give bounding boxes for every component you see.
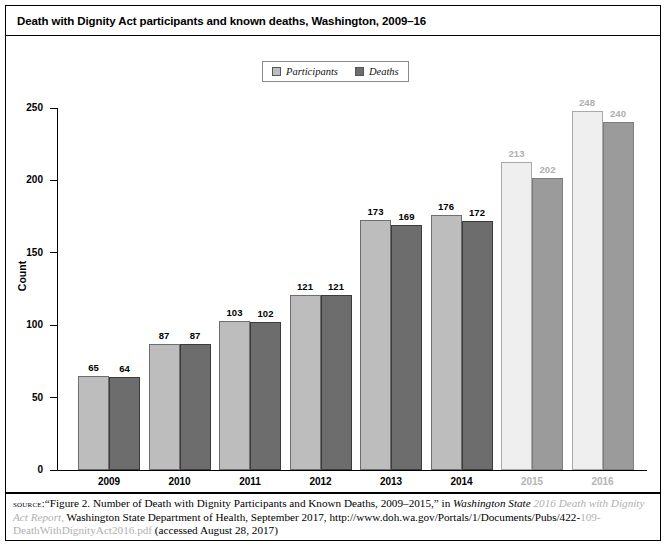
bar-group: 121121 bbox=[290, 108, 352, 470]
bar-deaths-2014[interactable]: 172 bbox=[462, 221, 493, 470]
bar-deaths-2012[interactable]: 121 bbox=[321, 295, 352, 470]
bar-groups: 6564878710310212112117316917617221320224… bbox=[0, 0, 666, 546]
source-text-1: “Figure 2. Number of Death with Dignity … bbox=[45, 497, 453, 509]
plot-area: Count 050100150200250 656487871031021211… bbox=[0, 0, 666, 546]
bar-value-label: 173 bbox=[368, 206, 384, 217]
x-axis-tick-label-2015: 2015 bbox=[497, 476, 567, 487]
source-note: source:“Figure 2. Number of Death with D… bbox=[13, 497, 653, 538]
bar-value-label: 64 bbox=[119, 363, 130, 374]
bar-participants-2009[interactable]: 65 bbox=[78, 376, 109, 470]
bar-group: 103102 bbox=[219, 108, 281, 470]
bar-participants-2013[interactable]: 173 bbox=[360, 220, 391, 471]
bar-value-label: 213 bbox=[509, 148, 525, 159]
bar-value-label: 172 bbox=[469, 207, 485, 218]
bar-deaths-2010[interactable]: 87 bbox=[180, 344, 211, 470]
x-axis-tick-label-2011: 2011 bbox=[215, 476, 285, 487]
bar-participants-2010[interactable]: 87 bbox=[149, 344, 180, 470]
bar-group: 173169 bbox=[360, 108, 422, 470]
bar-group: 213202 bbox=[501, 108, 563, 470]
x-axis-tick-label-2014: 2014 bbox=[427, 476, 497, 487]
bar-value-label: 169 bbox=[399, 211, 415, 222]
bar-deaths-2011[interactable]: 102 bbox=[250, 322, 281, 470]
bar-group: 176172 bbox=[431, 108, 493, 470]
bar-participants-2012[interactable]: 121 bbox=[290, 295, 321, 470]
bar-value-label: 121 bbox=[297, 281, 313, 292]
bar-value-label: 240 bbox=[610, 108, 626, 119]
source-kicker: source: bbox=[13, 498, 45, 509]
bar-deaths-2009[interactable]: 64 bbox=[109, 377, 140, 470]
bar-participants-2011[interactable]: 103 bbox=[219, 321, 250, 470]
bar-value-label: 103 bbox=[227, 307, 243, 318]
bar-value-label: 202 bbox=[540, 164, 556, 175]
bar-participants-2016[interactable]: 248 bbox=[572, 111, 603, 470]
bar-deaths-2013[interactable]: 169 bbox=[391, 225, 422, 470]
x-axis-tick-label-2009: 2009 bbox=[74, 476, 144, 487]
bar-value-label: 102 bbox=[258, 308, 274, 319]
bar-group: 6564 bbox=[78, 108, 140, 470]
bar-deaths-2015[interactable]: 202 bbox=[532, 178, 563, 470]
x-axis-tick-label-2016: 2016 bbox=[568, 476, 638, 487]
bar-deaths-2016[interactable]: 240 bbox=[603, 122, 634, 470]
bar-group: 248240 bbox=[572, 108, 634, 470]
x-axis-tick-label-2010: 2010 bbox=[145, 476, 215, 487]
bar-value-label: 121 bbox=[328, 281, 344, 292]
source-divider bbox=[6, 492, 660, 494]
x-axis-tick-label-2013: 2013 bbox=[356, 476, 426, 487]
bar-value-label: 65 bbox=[88, 362, 99, 373]
x-axis-tick-label-2012: 2012 bbox=[286, 476, 356, 487]
bar-value-label: 176 bbox=[438, 201, 454, 212]
source-text-3: (accessed August 28, 2017) bbox=[155, 524, 278, 536]
figure-container: Death with Dignity Act participants and … bbox=[0, 0, 666, 546]
bar-group: 8787 bbox=[149, 108, 211, 470]
bar-participants-2015[interactable]: 213 bbox=[501, 162, 532, 470]
bar-value-label: 87 bbox=[190, 330, 201, 341]
source-text-2: Washington State Department of Health, S… bbox=[67, 511, 581, 523]
bar-value-label: 248 bbox=[579, 97, 595, 108]
bar-participants-2014[interactable]: 176 bbox=[431, 215, 462, 470]
bar-value-label: 87 bbox=[159, 330, 170, 341]
source-italic-clear: Washington State bbox=[453, 497, 533, 509]
